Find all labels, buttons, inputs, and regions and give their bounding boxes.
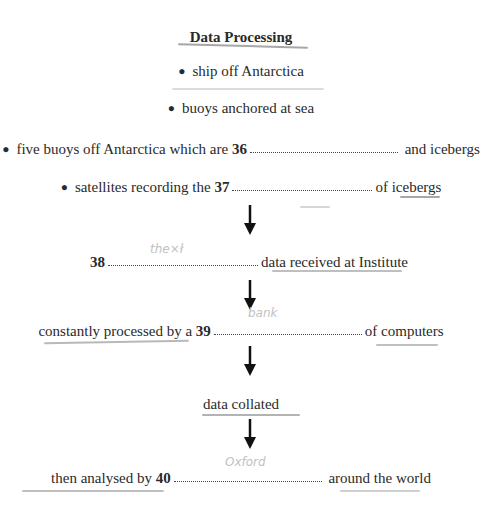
pencil-underline [202,414,300,416]
source-text: buoys anchored at sea [182,100,314,116]
source-text: ship off Antarctica [192,63,303,79]
step-text: around the world [328,470,430,486]
step-text: data received at Institute [261,254,408,270]
step-38: 38data received at Institute [8,253,482,271]
pencil-underline [172,88,324,90]
page-title: Data Processing [0,28,482,46]
question-number-38: 38 [90,254,105,270]
question-suffix: of icebergs [375,179,441,195]
down-arrow-icon [244,419,256,449]
handwritten-note: the×ł [150,242,183,256]
down-arrow-icon [244,205,256,235]
pencil-mark [300,206,330,208]
handwritten-note: bank [248,306,278,320]
step-39: constantly processed by a 39of computers [0,322,482,340]
answer-blank-36[interactable] [250,140,398,153]
answer-blank-37[interactable] [232,178,372,191]
question-prefix: satellites recording the [75,179,211,195]
answer-blank-39[interactable] [214,322,362,335]
question-suffix: and icebergs [405,141,480,157]
pencil-underline [400,196,440,198]
source-item-five-buoys: ●five buoys off Antarctica which are 36 … [0,140,482,158]
handwritten-note: Oxford [225,455,266,469]
down-arrow-icon [244,346,256,376]
pencil-underline [340,490,420,492]
question-number-36: 36 [232,141,247,157]
pencil-underline [22,490,164,492]
question-number-40: 40 [156,470,171,486]
step-text: of computers [365,323,444,339]
question-number-39: 39 [196,323,211,339]
source-item-buoys: ●buoys anchored at sea [0,99,482,117]
pencil-underline [44,340,189,345]
step-data-collated: data collated [0,395,482,413]
bullet-icon: ● [61,178,68,196]
pencil-underline [272,270,402,272]
answer-blank-40[interactable] [174,469,322,482]
question-number-37: 37 [214,179,229,195]
bullet-icon: ● [178,62,185,80]
bullet-icon: ● [168,99,175,117]
step-text: then analysed by [51,470,152,486]
pencil-underline [376,344,438,346]
bullet-icon: ● [2,140,9,158]
question-prefix: five buoys off Antarctica which are [16,141,228,157]
step-40: then analysed by 40 around the world [0,469,482,487]
source-item-ship: ●ship off Antarctica [0,62,482,80]
source-item-satellites: ●satellites recording the 37of icebergs [10,178,482,196]
step-text: constantly processed by a [38,323,192,339]
